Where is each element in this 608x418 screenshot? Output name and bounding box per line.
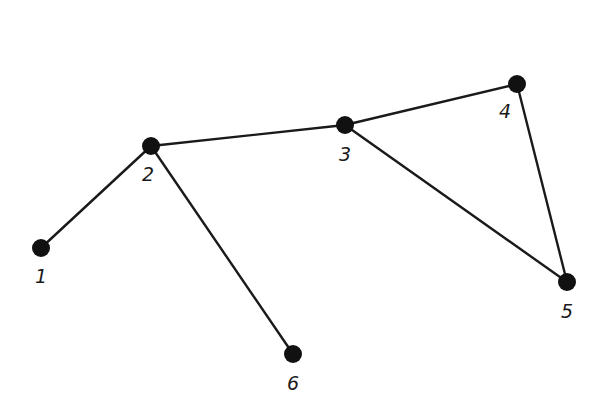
node-2 <box>142 137 160 155</box>
edges-group <box>41 84 567 354</box>
node-label-2: 2 <box>142 163 154 185</box>
edge-3-4 <box>345 84 517 125</box>
edge-2-6 <box>151 146 293 354</box>
node-3 <box>336 116 354 134</box>
node-label-5: 5 <box>561 300 573 322</box>
node-6 <box>284 345 302 363</box>
edge-1-2 <box>41 146 151 248</box>
node-label-1: 1 <box>35 265 47 287</box>
node-label-6: 6 <box>287 372 299 394</box>
node-5 <box>558 273 576 291</box>
graph-diagram: 123456 <box>0 0 608 418</box>
node-1 <box>32 239 50 257</box>
edge-2-3 <box>151 125 345 146</box>
node-4 <box>508 75 526 93</box>
nodes-group <box>32 75 576 363</box>
node-label-3: 3 <box>339 143 351 165</box>
labels-group: 123456 <box>35 100 573 394</box>
node-label-4: 4 <box>499 100 511 122</box>
